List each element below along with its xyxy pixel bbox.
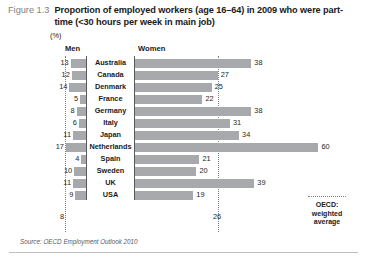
bar-women [135,179,254,188]
bar-men [69,83,86,92]
value-label-women: 39 [257,178,265,188]
value-label-women: 31 [233,118,241,128]
value-label-women: 27 [221,70,229,80]
country-label: UK [87,178,134,188]
value-label-women: 38 [254,58,262,68]
value-label-men: 4 [68,154,79,164]
bar-women [135,59,251,68]
value-label-women: 25 [215,82,223,92]
country-label: Netherlands [87,142,134,152]
legend-label-line1: OECD: [296,201,358,210]
bar-men [80,95,86,104]
value-label-men: 11 [60,130,71,140]
bar-men [79,119,86,128]
bar-women [135,143,318,152]
country-label: Denmark [87,82,134,92]
bar-men [77,107,86,116]
legend: OECD: weighted average [296,196,358,227]
column-header-men: Men [65,44,80,53]
country-label: Japan [87,130,134,140]
bar-men [75,191,86,200]
bar-men [72,71,86,80]
value-label-women: 19 [196,190,204,200]
source-note: Source: OECD Employment Outlook 2010 [20,238,138,245]
value-label-men: 12 [59,70,70,80]
country-label: Australia [87,58,134,68]
value-label-women: 22 [206,94,214,104]
country-label: Sweden [87,166,134,176]
bar-women [135,95,202,104]
page-title: Proportion of employed workers (age 16–6… [54,4,360,29]
bar-men [71,59,86,68]
men-average-value: 8 [60,212,64,221]
country-label: Spain [87,154,134,164]
column-header-women: Women [138,44,165,53]
bar-women [135,167,196,176]
unit-label: (%) [50,31,62,40]
legend-label-line3: average [296,218,358,227]
legend-label-line2: weighted [296,210,358,219]
country-label: France [87,94,134,104]
value-label-women: 60 [321,142,329,152]
country-label: Germany [87,106,134,116]
bar-men [81,155,86,164]
bar-men [74,167,86,176]
bar-women [135,155,199,164]
bar-men [66,143,86,152]
bar-men [73,179,86,188]
country-label: Canada [87,70,134,80]
bottom-divider [9,252,358,253]
figure-number: Figure 1.3 [8,4,54,16]
dotted-line-icon [308,196,346,197]
country-label: USA [87,190,134,200]
value-label-women: 21 [202,154,210,164]
value-label-women: 20 [199,166,207,176]
value-label-women: 34 [242,130,250,140]
bar-women [135,131,239,140]
value-label-men: 14 [56,82,67,92]
women-average-value: 26 [213,212,221,221]
value-label-men: 17 [53,142,64,152]
bar-women [135,83,211,92]
figure-title-row: Figure 1.3 Proportion of employed worker… [8,4,360,29]
bar-women [135,107,251,116]
plot-area: 13Australia3812Canada2714Denmark255Franc… [0,56,367,206]
value-label-men: 13 [58,58,69,68]
bar-men [73,131,86,140]
value-label-women: 38 [254,106,262,116]
bar-women [135,191,193,200]
value-label-men: 6 [66,118,77,128]
value-label-men: 10 [61,166,72,176]
value-label-men: 8 [64,106,75,116]
value-label-men: 5 [67,94,78,104]
value-label-men: 11 [60,178,71,188]
bar-women [135,119,230,128]
figure-container: Figure 1.3 Proportion of employed worker… [0,0,367,262]
bar-women [135,71,217,80]
country-label: Italy [87,118,134,128]
value-label-men: 9 [62,190,73,200]
